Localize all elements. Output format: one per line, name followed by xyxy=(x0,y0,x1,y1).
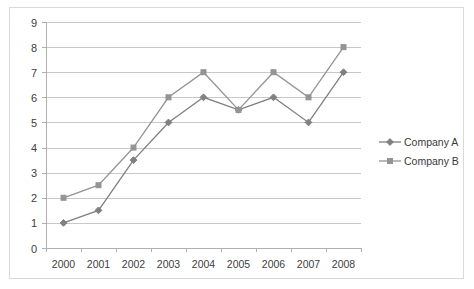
y-axis-tick-label: 1 xyxy=(31,217,37,229)
y-axis-tick-label: 2 xyxy=(31,192,37,204)
legend-item-company-b[interactable]: Company B xyxy=(379,155,459,167)
chart-frame: 0123456789200020012002200320042005200620… xyxy=(9,7,464,279)
x-axis-tick-label: 2006 xyxy=(262,258,286,270)
data-point-marker xyxy=(131,145,136,150)
legend-marker-icon xyxy=(388,159,393,164)
data-point-marker xyxy=(271,70,276,75)
legend-marker-icon xyxy=(387,139,394,146)
x-axis-tick-label: 2008 xyxy=(332,258,356,270)
x-axis-tick-label: 2005 xyxy=(227,258,251,270)
data-point-marker xyxy=(61,195,66,200)
y-axis-tick-label: 5 xyxy=(31,117,37,129)
x-axis-tick-label: 2003 xyxy=(157,258,181,270)
legend-item-company-a[interactable]: Company A xyxy=(379,136,458,148)
chart-plot-area: 0123456789200020012002200320042005200620… xyxy=(10,8,465,280)
data-point-marker xyxy=(306,95,311,100)
y-axis-tick-label: 0 xyxy=(31,243,37,255)
y-axis-tick-label: 4 xyxy=(31,142,37,154)
legend-label: Company B xyxy=(404,155,459,167)
data-point-marker xyxy=(236,107,241,112)
y-axis-tick-label: 6 xyxy=(31,92,37,104)
data-point-marker xyxy=(341,45,346,50)
x-axis-tick-label: 2001 xyxy=(87,258,111,270)
data-point-marker xyxy=(201,70,206,75)
y-axis-tick-label: 7 xyxy=(31,67,37,79)
legend-label: Company A xyxy=(404,136,458,148)
y-axis-tick-label: 8 xyxy=(31,42,37,54)
line-chart: 0123456789200020012002200320042005200620… xyxy=(10,8,465,280)
data-point-marker xyxy=(96,183,101,188)
data-point-marker xyxy=(166,95,171,100)
x-axis-tick-label: 2002 xyxy=(122,258,146,270)
x-axis-tick-label: 2004 xyxy=(192,258,216,270)
x-axis-tick-label: 2007 xyxy=(297,258,321,270)
x-axis-tick-label: 2000 xyxy=(52,258,76,270)
y-axis-tick-label: 3 xyxy=(31,167,37,179)
y-axis-tick-label: 9 xyxy=(31,17,37,29)
data-point-marker xyxy=(60,219,67,226)
